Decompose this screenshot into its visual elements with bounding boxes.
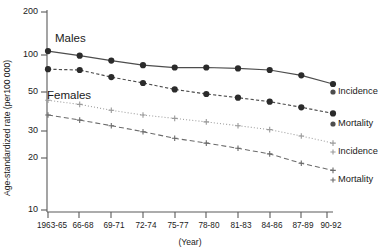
x-tick-label-1: 66-68 bbox=[73, 221, 94, 230]
data-point bbox=[235, 95, 241, 101]
data-point bbox=[330, 81, 336, 87]
data-point bbox=[172, 116, 178, 122]
data-point bbox=[77, 67, 83, 73]
data-point bbox=[203, 91, 209, 97]
data-point bbox=[299, 161, 305, 167]
data-point bbox=[140, 112, 146, 118]
legend-marker-males-mortality bbox=[330, 121, 335, 126]
x-axis-ticks: 1963-65 66-68 69-71 72-74 75-77 78-80 81… bbox=[37, 212, 342, 230]
legend-dot-icon bbox=[330, 89, 335, 94]
x-tick-label-4: 75-77 bbox=[168, 221, 189, 230]
series-line bbox=[48, 115, 333, 170]
data-point bbox=[140, 80, 146, 86]
data-point bbox=[77, 102, 83, 108]
y-tick-label-30: 30 bbox=[28, 125, 38, 135]
data-point bbox=[172, 136, 178, 142]
series-females-mortality bbox=[45, 112, 336, 173]
line-chart: Age-standardized rate (per100 000) 200 1… bbox=[0, 0, 379, 250]
data-point bbox=[109, 123, 115, 129]
data-point bbox=[235, 146, 241, 152]
y-tick-label-200: 200 bbox=[23, 6, 38, 16]
plot-series-layer bbox=[45, 48, 336, 183]
legend-plus-icon bbox=[330, 177, 335, 182]
data-point bbox=[299, 133, 305, 139]
x-tick-label-9: 90-92 bbox=[321, 221, 342, 230]
data-point bbox=[77, 117, 83, 123]
data-point bbox=[235, 123, 241, 129]
data-point bbox=[140, 62, 146, 68]
y-tick-label-100: 100 bbox=[23, 49, 38, 59]
series-label-males-mortality: Mortality bbox=[338, 118, 373, 128]
data-point bbox=[235, 65, 241, 71]
legend-plus-icon bbox=[330, 149, 335, 154]
data-point bbox=[77, 53, 83, 59]
legend-dot-icon bbox=[330, 121, 335, 126]
series-males-incidence bbox=[45, 48, 336, 87]
x-tick-label-3: 72-74 bbox=[136, 221, 157, 230]
data-point bbox=[330, 110, 336, 116]
legend-marker-females-mortality bbox=[330, 177, 335, 182]
legend-marker-females-incidence bbox=[330, 149, 335, 154]
y-tick-label-10: 10 bbox=[28, 204, 38, 214]
x-tick-label-7: 84-86 bbox=[262, 221, 283, 230]
data-point bbox=[298, 72, 304, 78]
y-tick-label-50: 50 bbox=[28, 86, 38, 96]
data-point bbox=[203, 64, 209, 70]
series-label-females-mortality: Mortality bbox=[338, 174, 373, 184]
chart-container: Age-standardized rate (per100 000) 200 1… bbox=[0, 0, 379, 250]
x-tick-label-5: 78-80 bbox=[199, 221, 220, 230]
data-point bbox=[108, 58, 114, 64]
data-point bbox=[140, 129, 146, 135]
data-point bbox=[267, 67, 273, 73]
data-point bbox=[267, 127, 273, 133]
series-label-males-incidence: Incidence bbox=[338, 86, 378, 96]
data-point bbox=[172, 86, 178, 92]
data-point bbox=[204, 140, 210, 146]
y-axis-title: Age-standardized rate (per100 000) bbox=[2, 60, 12, 196]
data-point bbox=[330, 168, 336, 174]
data-point bbox=[45, 48, 51, 54]
y-axis-ticks: 200 100 50 30 20 10 bbox=[23, 6, 47, 214]
series-label-females-incidence: Incidence bbox=[338, 146, 378, 156]
annotation-males: Males bbox=[55, 32, 86, 44]
data-point bbox=[45, 66, 51, 72]
data-point bbox=[45, 112, 51, 118]
x-tick-label-8: 87-89 bbox=[293, 221, 314, 230]
x-tick-label-0: 1963-65 bbox=[37, 221, 67, 230]
legend-marker-males-incidence bbox=[330, 89, 335, 94]
x-axis-title: (Year) bbox=[178, 237, 201, 247]
data-point bbox=[267, 99, 273, 105]
annotation-females: Females bbox=[47, 89, 91, 101]
data-point bbox=[108, 74, 114, 80]
x-tick-label-2: 69-71 bbox=[104, 221, 125, 230]
data-point bbox=[298, 104, 304, 110]
data-point bbox=[172, 64, 178, 70]
data-point bbox=[109, 108, 115, 114]
x-tick-label-6: 81-83 bbox=[231, 221, 252, 230]
data-point bbox=[330, 140, 336, 146]
y-tick-label-20: 20 bbox=[28, 152, 38, 162]
data-point bbox=[204, 119, 210, 125]
data-point bbox=[267, 151, 273, 157]
series-line bbox=[48, 51, 333, 84]
